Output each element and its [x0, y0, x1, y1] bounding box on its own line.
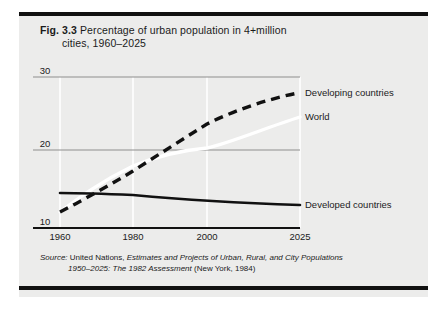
- x-tick-label-1980: 1980: [122, 231, 143, 242]
- horizontal-gridlines: [33, 77, 300, 150]
- x-tick-label-2025: 2025: [289, 231, 310, 242]
- figure-source: Source: United Nations, Estimates and Pr…: [40, 253, 410, 274]
- y-tick-label-30: 30: [40, 65, 51, 76]
- series-label-world: World: [305, 111, 330, 122]
- source-italic-2: 1950–2025: The 1982 Assessment: [68, 264, 192, 273]
- y-tick-label-20: 20: [40, 138, 51, 149]
- source-plain-2: (New York, 1984): [192, 264, 256, 273]
- source-italic-1: Estimates and Projects of Urban, Rural, …: [127, 253, 343, 262]
- source-plain-1: United Nations,: [68, 253, 127, 262]
- series-line-developed: [60, 193, 300, 205]
- series-label-developed: Developed countries: [305, 199, 392, 210]
- series-label-developing: Developing countries: [305, 87, 394, 98]
- y-tick-label-10: 10: [40, 216, 51, 227]
- figure-page: Fig. 3.3 Percentage of urban population …: [0, 0, 447, 310]
- x-tick-label-1960: 1960: [49, 231, 70, 242]
- x-tick-label-2000: 2000: [196, 231, 217, 242]
- source-prefix: Source:: [40, 253, 68, 262]
